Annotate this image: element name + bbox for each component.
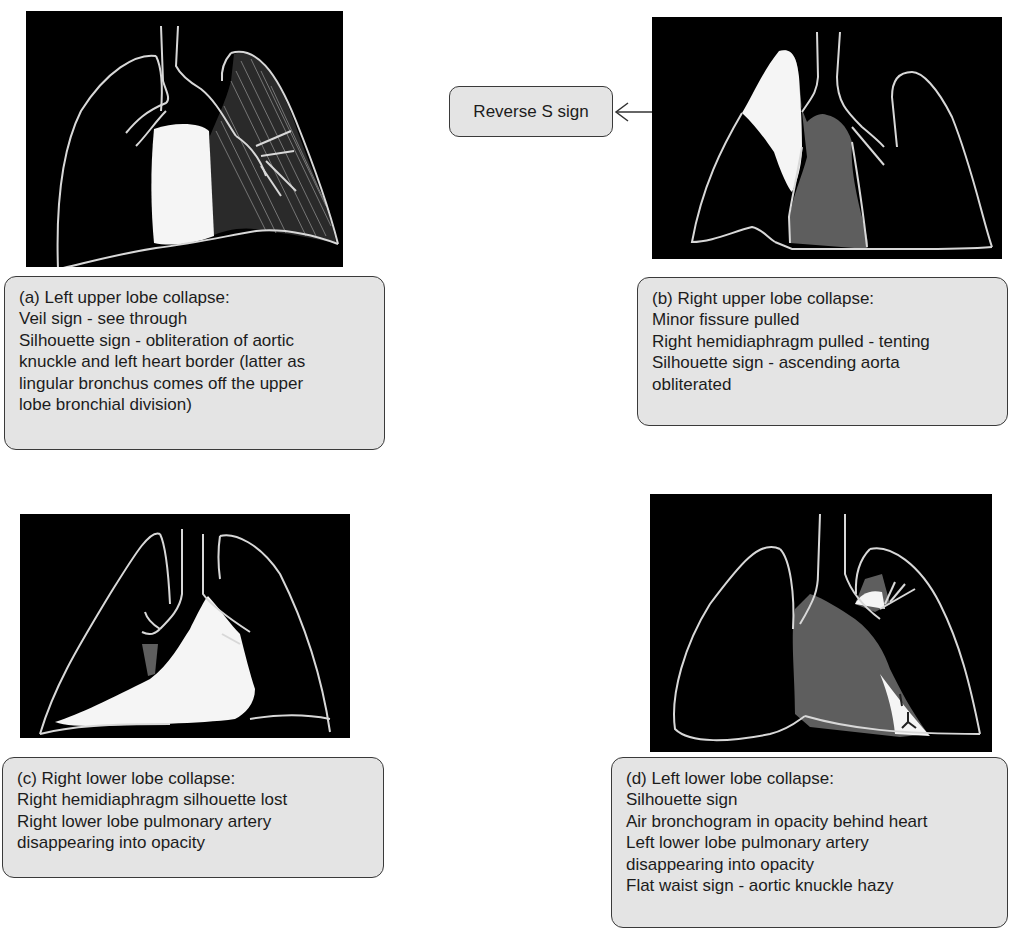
caption-right-lower-lobe-collapse: (c) Right lower lobe collapse: Right hem… <box>2 757 384 878</box>
caption-title: (a) Left upper lobe collapse: <box>19 287 372 308</box>
caption-line: obliterated <box>652 374 995 395</box>
caption-line: lobe bronchial division) <box>19 394 372 415</box>
lung-diagram-left-upper-lobe <box>26 11 343 267</box>
caption-line: knuckle and left heart border (latter as <box>19 351 372 372</box>
caption-line: Silhouette sign - obliteration of aortic <box>19 330 372 351</box>
caption-line: Air bronchogram in opacity behind heart <box>626 811 995 832</box>
xray-panel-c <box>20 514 350 738</box>
caption-line: Right hemidiaphragm pulled - tenting <box>652 331 995 352</box>
caption-title: (c) Right lower lobe collapse: <box>17 768 371 789</box>
caption-left-upper-lobe-collapse: (a) Left upper lobe collapse: Veil sign … <box>4 276 385 450</box>
caption-line: Right lower lobe pulmonary artery <box>17 811 371 832</box>
caption-line: lingular bronchus comes off the upper <box>19 373 372 394</box>
caption-line: Left lower lobe pulmonary artery <box>626 832 995 853</box>
caption-line: disappearing into opacity <box>626 854 995 875</box>
caption-line: disappearing into opacity <box>17 832 371 853</box>
callout-label: Reverse S sign <box>473 102 588 122</box>
caption-line: Flat waist sign - aortic knuckle hazy <box>626 875 995 896</box>
caption-left-lower-lobe-collapse: (d) Left lower lobe collapse: Silhouette… <box>611 757 1008 928</box>
caption-title: (b) Right upper lobe collapse: <box>652 288 995 309</box>
caption-line: Minor fissure pulled <box>652 309 995 330</box>
caption-line: Silhouette sign - ascending aorta <box>652 352 995 373</box>
caption-line: Veil sign - see through <box>19 308 372 329</box>
xray-panel-d <box>650 494 992 752</box>
caption-title: (d) Left lower lobe collapse: <box>626 768 995 789</box>
lung-diagram-right-upper-lobe <box>652 17 1002 259</box>
lung-diagram-left-lower-lobe <box>650 494 992 752</box>
caption-line: Silhouette sign <box>626 789 995 810</box>
caption-line: Right hemidiaphragm silhouette lost <box>17 789 371 810</box>
xray-panel-b <box>652 17 1002 259</box>
reverse-s-sign-callout: Reverse S sign <box>449 86 613 137</box>
xray-panel-a <box>26 11 343 267</box>
lung-diagram-right-lower-lobe <box>20 514 350 738</box>
caption-right-upper-lobe-collapse: (b) Right upper lobe collapse: Minor fis… <box>637 277 1008 426</box>
